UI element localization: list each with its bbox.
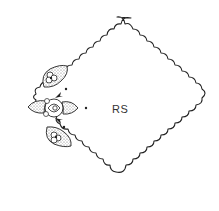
marker-dot-center: [85, 107, 87, 109]
marker-dot-upper: [65, 88, 67, 90]
right-side-label: RS: [112, 103, 128, 115]
handkerchief-diagram: [0, 0, 219, 211]
marker-dot-lower: [63, 126, 65, 128]
lower-leaf-motif: [46, 127, 71, 147]
